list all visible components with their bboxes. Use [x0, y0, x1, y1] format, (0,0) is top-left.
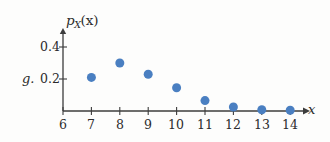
axes: [60, 28, 310, 114]
figure-container: g. pX(x) x 0.4 0.2 6 7 8 9 10 11 12 13 1…: [0, 0, 330, 142]
data-point: [87, 73, 96, 82]
plot-area: [0, 0, 330, 142]
data-point: [201, 96, 210, 105]
data-point: [229, 103, 238, 112]
data-point: [144, 70, 153, 79]
x-axis-arrowhead: [303, 108, 310, 115]
data-point: [172, 83, 181, 92]
data-point: [286, 106, 295, 115]
data-point: [257, 105, 266, 114]
data-point: [115, 59, 124, 68]
data-point-series: [87, 59, 295, 115]
y-axis-arrowhead: [60, 28, 66, 34]
